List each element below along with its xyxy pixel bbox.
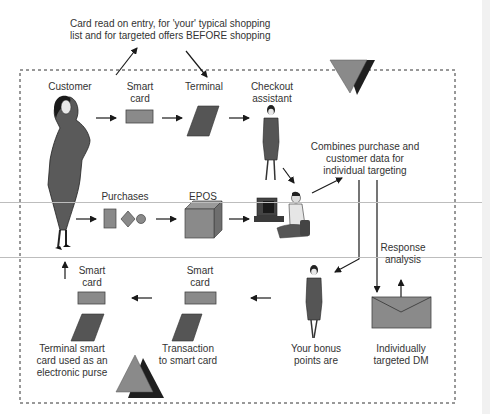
purchases-shapes [104, 209, 146, 228]
label-smart-card-left: Smart card [72, 265, 112, 289]
label-targeted-dm: Individually targeted DM [371, 343, 431, 367]
epos-box [185, 201, 222, 238]
customer-figure [48, 96, 90, 250]
label-combines-note: Combines purchase and customer data for … [310, 141, 420, 177]
label-epos: EPOS [188, 191, 218, 203]
label-terminal: Terminal [182, 81, 226, 93]
smart-card-mid-shape [185, 292, 216, 304]
label-smart-card-top: Smart card [120, 81, 160, 105]
bonus-points-figure [306, 265, 322, 338]
label-customer: Customer [45, 81, 95, 93]
arrow-computer-to-combines [312, 178, 342, 193]
terminal-shape [187, 106, 219, 136]
arrow-note-to-terminal [186, 51, 207, 77]
label-terminal-purse: Terminal smart card used as an electroni… [32, 343, 112, 379]
label-response-analysis: Response analysis [378, 242, 428, 266]
smart-card-left-shape [78, 292, 105, 304]
label-purchases: Purchases [100, 191, 150, 203]
envelope-icon [372, 297, 431, 328]
transaction-terminal-shape [172, 314, 202, 341]
checkout-assistant-figure [263, 105, 279, 180]
label-checkout-assistant: Checkout assistant [248, 81, 296, 105]
top-note: Card read on entry, for 'your' typical s… [70, 18, 260, 42]
arrow-card-to-note [116, 48, 137, 75]
computer-operator-figure [254, 192, 310, 238]
arrow-combines-to-bonus [335, 180, 359, 272]
label-transaction: Transaction to smart card [158, 343, 218, 367]
label-smart-card-mid: Smart card [180, 265, 220, 289]
terminal-purse-shape [71, 314, 104, 341]
triangle-logo [116, 355, 164, 398]
smart-card-top-shape [126, 110, 153, 123]
label-bonus-points: Your bonus points are [288, 343, 344, 367]
inverted-triangle-logo [330, 60, 375, 95]
arrow-checkout-to-computer [283, 168, 294, 183]
scan-line [0, 202, 482, 203]
